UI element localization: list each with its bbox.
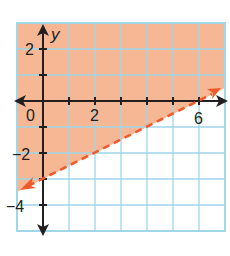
- inequality-graph: y 2 0 2 6 −2 −4: [0, 0, 230, 256]
- origin-label: 0: [26, 107, 35, 124]
- y-tick-label-2: 2: [25, 41, 34, 58]
- y-tick-label-neg4: −4: [6, 198, 24, 215]
- x-tick-label-6: 6: [194, 110, 203, 127]
- y-axis-label: y: [50, 25, 61, 44]
- x-tick-label-2: 2: [90, 107, 99, 124]
- y-tick-label-neg2: −2: [12, 146, 30, 163]
